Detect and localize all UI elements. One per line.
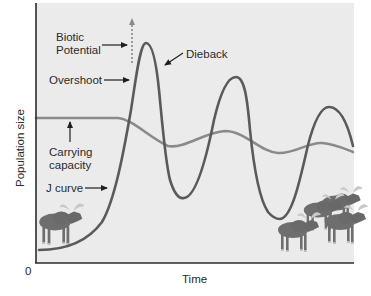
population-dynamics-figure: Biotic Potential Overshoot Dieback Carry… <box>0 0 371 296</box>
carrying-capacity-label: Carrying capacity <box>49 146 92 171</box>
biotic-potential-label: Biotic Potential <box>56 31 101 56</box>
biotic-label-line1: Biotic <box>56 31 101 44</box>
overshoot-label: Overshoot <box>49 74 102 87</box>
dieback-label: Dieback <box>186 48 228 61</box>
j-curve-label: J curve <box>46 182 83 195</box>
x-axis-label: Time <box>182 273 207 286</box>
y-axis-label: Population size <box>14 109 26 187</box>
carrying-label-line1: Carrying <box>49 146 92 159</box>
carrying-label-line2: capacity <box>49 159 92 172</box>
origin-label: 0 <box>25 265 31 278</box>
biotic-label-line2: Potential <box>56 44 101 57</box>
